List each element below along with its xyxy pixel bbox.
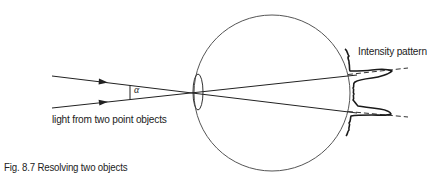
intensity-pattern-curve [345, 49, 392, 136]
eyeball-outline [194, 15, 350, 171]
arrow-icon [99, 100, 108, 106]
light-rays [52, 75, 357, 113]
arrow-icon [99, 79, 108, 85]
figure-caption: Fig. 8.7 Resolving two objects [4, 161, 127, 173]
angle-alpha-label: α [134, 84, 139, 95]
lower-ray [52, 75, 357, 108]
light-source-label: light from two point objects [52, 113, 167, 125]
upper-ray [52, 76, 357, 113]
ray-arrows [99, 79, 108, 106]
diagram-canvas [0, 0, 446, 181]
intensity-pattern-label: Intensity pattern [358, 45, 427, 57]
